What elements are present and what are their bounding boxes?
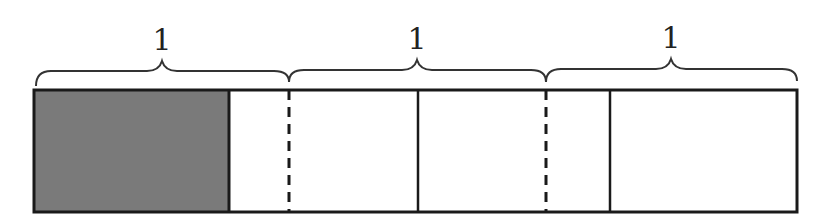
brace-label-3: 1 xyxy=(661,20,680,55)
fraction-tape-diagram: 1 1 1 xyxy=(0,0,832,216)
shaded-section xyxy=(34,90,229,212)
brace-2: 1 xyxy=(289,21,546,82)
brace-1: 1 xyxy=(36,22,289,86)
brace-label-2: 1 xyxy=(407,21,426,56)
brace-label-1: 1 xyxy=(152,22,171,57)
brace-3: 1 xyxy=(546,20,797,82)
